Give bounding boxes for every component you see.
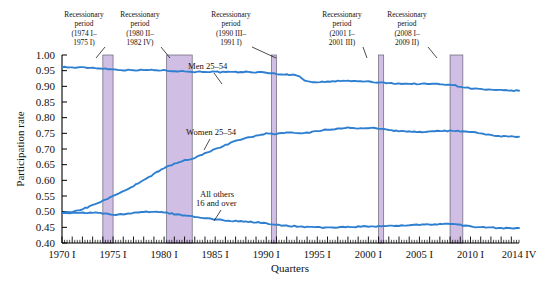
y-tick-label: 1.00	[36, 49, 56, 61]
x-tick-label: 2005 I	[406, 249, 434, 260]
recession-callout-line: Recessionary	[211, 10, 251, 19]
recession-callout-line: 2009 II)	[395, 38, 420, 47]
recession-callout-line: 1982 IV)	[127, 38, 154, 47]
y-tick-label: 0.75	[36, 127, 56, 139]
recession-callout-line: period	[75, 19, 94, 28]
recession-callout-line: 1991 I)	[220, 38, 242, 47]
y-tick-label: 0.90	[36, 80, 56, 92]
recession-callout-line: period	[398, 19, 417, 28]
recession-callout-line: Recessionary	[387, 10, 427, 19]
recession-callout-line: (1990 III–	[216, 29, 246, 38]
y-tick-label: 0.65	[36, 158, 56, 170]
y-tick-label: 0.85	[36, 96, 56, 108]
recession-callout-line: 1975 I)	[73, 38, 95, 47]
y-tick-label: 0.95	[36, 64, 56, 76]
y-tick-label: 0.80	[36, 111, 56, 123]
recession-callout-line: period	[222, 19, 241, 28]
recession-callout-line: (2008 I–	[394, 29, 420, 38]
y-tick-label: 0.45	[36, 221, 56, 233]
figure-container: 0.400.450.500.550.600.650.700.750.800.85…	[0, 0, 540, 288]
y-tick-label: 0.55	[36, 190, 56, 202]
series-annotation-label: Men 25–54	[188, 61, 228, 71]
recession-callout-line: (1980 II–	[126, 29, 154, 38]
x-tick-label: 1980 I	[151, 249, 179, 260]
x-tick-label: 1990 I	[253, 249, 281, 260]
recession-callout-line: period	[131, 19, 150, 28]
x-tick-label: 1985 I	[202, 249, 230, 260]
recession-band-5	[450, 55, 463, 243]
y-tick-label: 0.60	[36, 174, 56, 186]
recession-callout-line: 2001 III)	[329, 38, 356, 47]
recession-callout-line: (1974 I–	[71, 29, 97, 38]
y-tick-label: 0.50	[36, 205, 56, 217]
x-tick-label: 1995 I	[304, 249, 332, 260]
x-tick-label: 1970 I	[48, 249, 76, 260]
y-tick-label: 0.40	[36, 237, 56, 249]
recession-band-3	[271, 55, 276, 243]
y-tick-label: 0.70	[36, 143, 56, 155]
x-tick-label: 2000 I	[355, 249, 383, 260]
recession-callout-line: (2001 I–	[329, 29, 355, 38]
recession-callout-line: Recessionary	[64, 10, 104, 19]
x-tick-label: 2010 I	[457, 249, 485, 260]
recession-callout-line: Recessionary	[120, 10, 160, 19]
x-tick-label: 1975 I	[99, 249, 127, 260]
series-annotation-label: Women 25–54	[186, 127, 237, 137]
x-tick-label: 2014 IV	[502, 249, 537, 260]
participation-rate-line-chart: 0.400.450.500.550.600.650.700.750.800.85…	[0, 0, 540, 288]
recession-callout-line: Recessionary	[322, 10, 362, 19]
y-axis-title: Participation rate	[14, 111, 26, 187]
series-annotation-label: 16 and over	[196, 198, 237, 208]
x-axis-title: Quarters	[271, 262, 309, 274]
recession-callout-line: period	[333, 19, 352, 28]
